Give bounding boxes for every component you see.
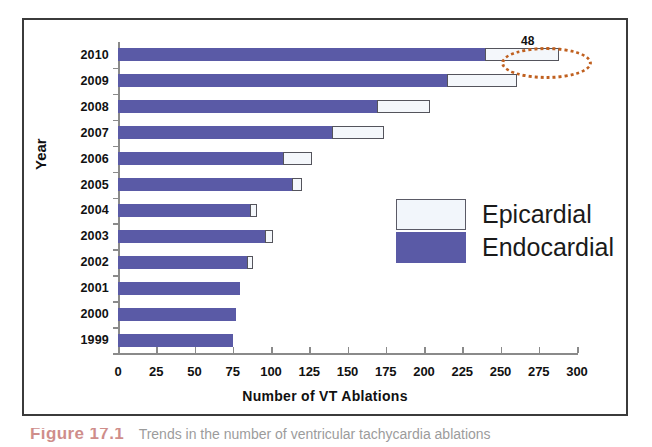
figure-caption: Figure 17.1 Trends in the number of vent… — [22, 428, 628, 447]
y-tick-label: 2003 — [80, 229, 109, 243]
stacked-bar — [118, 256, 253, 269]
y-tick-label: 2001 — [80, 281, 109, 295]
y-tick-label: 2007 — [80, 126, 109, 140]
x-tick-label: 150 — [337, 364, 359, 379]
x-tick-label: 100 — [260, 364, 282, 379]
bar-segment-endocardial — [118, 282, 240, 295]
stacked-bar — [118, 282, 240, 295]
y-tick-label: 1999 — [80, 333, 109, 347]
stacked-bar — [118, 204, 257, 217]
stacked-bar — [118, 178, 302, 191]
stacked-bar — [118, 230, 273, 243]
bar-segment-epicardial — [250, 204, 258, 217]
x-axis-line — [118, 353, 578, 355]
legend-swatch-endocardial-icon — [396, 232, 466, 263]
stacked-bar — [118, 152, 312, 165]
bar-segment-epicardial — [447, 74, 517, 87]
y-tick-label: 2010 — [80, 48, 109, 62]
bar-row: 2000 — [118, 301, 577, 327]
bar-segment-epicardial — [292, 178, 301, 191]
bar-segment-endocardial — [118, 152, 283, 165]
y-axis-title: Year — [32, 138, 49, 170]
legend-label-endocardial: Endocardial — [482, 235, 614, 260]
legend-item-epicardial: Epicardial — [396, 198, 614, 231]
legend-label-epicardial: Epicardial — [482, 202, 592, 227]
stacked-bar — [118, 48, 559, 61]
bar-segment-endocardial — [118, 204, 250, 217]
bar-segment-epicardial — [265, 230, 273, 243]
x-tick-label: 50 — [187, 364, 201, 379]
y-tick-label: 2005 — [80, 178, 109, 192]
bar-segment-epicardial — [485, 48, 558, 61]
x-tick-label: 250 — [490, 364, 512, 379]
bar-segment-endocardial — [118, 100, 377, 113]
bar-row: 2005 — [118, 172, 577, 198]
bar-row: 2006 — [118, 146, 577, 172]
bar-segment-endocardial — [118, 334, 233, 347]
x-tick-label: 175 — [375, 364, 397, 379]
y-tick-label: 2006 — [80, 152, 109, 166]
y-tick-label: 2004 — [80, 203, 109, 217]
x-tick-label: 200 — [413, 364, 435, 379]
stacked-bar — [118, 126, 384, 139]
bar-segment-epicardial — [283, 152, 312, 165]
figure-caption-label: Figure 17.1 — [30, 428, 124, 443]
stacked-bar — [118, 100, 430, 113]
bar-row: 1999 — [118, 327, 577, 353]
bar-segment-endocardial — [118, 48, 485, 61]
annotation-48-label: 48 — [521, 34, 534, 48]
x-tick-label: 275 — [528, 364, 550, 379]
bar-segment-endocardial — [118, 308, 236, 321]
y-tick-label: 2009 — [80, 74, 109, 88]
x-tick-label: 300 — [566, 364, 588, 379]
bar-segment-endocardial — [118, 256, 247, 269]
x-tick-label: 75 — [226, 364, 240, 379]
bar-segment-endocardial — [118, 178, 292, 191]
legend-swatch-epicardial-icon — [396, 199, 466, 230]
bar-segment-epicardial — [377, 100, 431, 113]
x-axis-title: Number of VT Ablations — [24, 388, 626, 404]
x-tick-label: 25 — [149, 364, 163, 379]
bar-row: 2001 — [118, 275, 577, 301]
bar-row: 2010 — [118, 42, 577, 68]
figure-caption-text: Trends in the number of ventricular tach… — [139, 428, 491, 442]
bar-row: 2008 — [118, 94, 577, 120]
bar-segment-endocardial — [118, 126, 332, 139]
bar-row: 2009 — [118, 68, 577, 94]
stacked-bar — [118, 74, 517, 87]
bar-segment-endocardial — [118, 74, 447, 87]
x-tick-label: 225 — [451, 364, 473, 379]
x-tick-mark — [577, 347, 579, 353]
x-tick-label: 0 — [114, 364, 121, 379]
bar-row: 2007 — [118, 120, 577, 146]
stacked-bar — [118, 334, 233, 347]
bar-segment-endocardial — [118, 230, 265, 243]
y-tick-label: 2002 — [80, 255, 109, 269]
chart-legend: Epicardial Endocardial — [396, 198, 614, 264]
legend-item-endocardial: Endocardial — [396, 231, 614, 264]
x-tick-label: 125 — [298, 364, 320, 379]
y-tick-label: 2000 — [80, 307, 109, 321]
bar-segment-epicardial — [247, 256, 253, 269]
figure-frame: Year 20102009200820072006200520042003200… — [22, 18, 628, 416]
y-tick-label: 2008 — [80, 100, 109, 114]
bar-segment-epicardial — [332, 126, 384, 139]
stacked-bar — [118, 308, 236, 321]
